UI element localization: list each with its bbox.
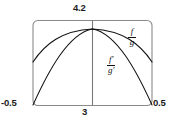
- curve-label-f-over-g-denominator: g: [129, 38, 136, 47]
- axis-label-right: 0.5: [153, 97, 166, 108]
- curve-label-fprime-over-gprime: f′ g′: [107, 55, 115, 75]
- curve-label-f-over-g: f g: [128, 27, 136, 47]
- axis-label-top: 4.2: [73, 2, 86, 13]
- graph-screenshot: 4.2 3 -0.5 0.5 f g f′ g′: [0, 0, 171, 123]
- curve-label-fprime-over-gprime-numerator: f′: [108, 55, 114, 64]
- axis-label-bottom: 3: [82, 106, 87, 117]
- plot-area: [0, 0, 171, 123]
- curve-label-fprime-over-gprime-denominator: g′: [107, 66, 115, 75]
- axis-label-left: -0.5: [1, 97, 17, 108]
- curve-label-f-over-g-numerator: f: [130, 27, 135, 36]
